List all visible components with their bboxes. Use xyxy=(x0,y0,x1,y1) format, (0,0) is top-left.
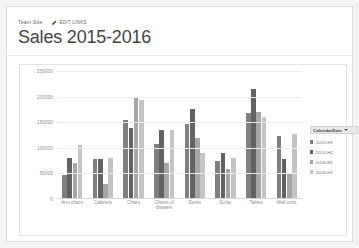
bar[interactable] xyxy=(154,144,159,199)
x-axis-tick-label: Cabinets xyxy=(88,200,119,219)
legend-item[interactable]: 2015-H2 xyxy=(310,147,358,157)
legend-swatch xyxy=(310,170,313,173)
bar[interactable] xyxy=(170,130,175,199)
pencil-icon xyxy=(51,20,57,26)
x-axis-line xyxy=(57,198,302,199)
chevron-down-icon xyxy=(344,129,348,131)
bar[interactable] xyxy=(195,138,200,199)
legend-title-button[interactable]: CalendarDate xyxy=(310,126,358,134)
y-axis: 250000200000150000100000500000 xyxy=(21,71,55,199)
bar-group xyxy=(241,71,272,199)
chart-legend: CalendarDate 2015-H12015-H22016-H12016-H… xyxy=(310,126,358,177)
legend-item[interactable]: 2015-H1 xyxy=(310,137,358,147)
y-axis-tick-label: 100000 xyxy=(37,145,53,150)
gridline xyxy=(57,122,302,123)
x-axis-tick-label: Tables xyxy=(241,200,272,219)
bar[interactable] xyxy=(256,112,261,199)
legend-item-label: 2015-H2 xyxy=(316,150,333,155)
legend-swatch xyxy=(310,160,313,163)
chart-webpart: 250000200000150000100000500000 Arm chair… xyxy=(19,64,347,236)
bar[interactable] xyxy=(287,174,292,199)
gridline xyxy=(57,173,302,174)
bar[interactable] xyxy=(103,184,108,199)
x-axis-tick-label: Sofas xyxy=(210,200,241,219)
bar[interactable] xyxy=(231,158,236,199)
gridline xyxy=(57,97,302,98)
legend-items: 2015-H12015-H22016-H12016-H2 xyxy=(310,137,358,177)
x-axis-tick-label: Chests of drawers xyxy=(149,200,180,219)
bar[interactable] xyxy=(246,113,251,199)
bar[interactable] xyxy=(139,100,144,199)
bar[interactable] xyxy=(93,159,98,199)
bar[interactable] xyxy=(108,158,113,199)
bar[interactable] xyxy=(282,159,287,199)
legend-swatch xyxy=(310,140,313,143)
bar-group xyxy=(57,71,88,199)
chart-plot-wrapper: 250000200000150000100000500000 Arm chair… xyxy=(21,71,306,219)
page-root: Team Site EDIT LINKS Sales 2015-2016 250… xyxy=(0,0,359,248)
y-axis-tick-label: 250000 xyxy=(37,69,53,74)
x-axis-tick-label: Wall units xyxy=(271,200,302,219)
gridline xyxy=(57,71,302,72)
y-axis-tick-label: 0 xyxy=(50,197,53,202)
bar[interactable] xyxy=(185,124,190,199)
bar[interactable] xyxy=(262,117,267,199)
bar-group xyxy=(180,71,211,199)
gridline xyxy=(57,148,302,149)
x-axis-tick-label: Chairs xyxy=(118,200,149,219)
bar[interactable] xyxy=(62,175,67,199)
bar[interactable] xyxy=(123,120,128,199)
bar-group xyxy=(210,71,241,199)
bar[interactable] xyxy=(251,89,256,199)
bar[interactable] xyxy=(73,163,78,199)
page-title: Sales 2015-2016 xyxy=(18,26,151,48)
bar[interactable] xyxy=(200,153,205,199)
bars-layer xyxy=(57,71,302,199)
y-axis-tick-label: 150000 xyxy=(37,120,53,125)
legend-item[interactable]: 2016-H2 xyxy=(310,167,358,177)
x-axis: Arm chairsCabinetsChairsChests of drawer… xyxy=(57,200,302,219)
legend-item-label: 2016-H2 xyxy=(316,170,333,175)
bar[interactable] xyxy=(292,134,297,199)
bar[interactable] xyxy=(159,130,164,199)
site-card: Team Site EDIT LINKS Sales 2015-2016 250… xyxy=(6,6,353,242)
bar[interactable] xyxy=(221,153,226,199)
x-axis-tick-label: Arm chairs xyxy=(57,200,88,219)
bar[interactable] xyxy=(67,158,72,199)
bar[interactable] xyxy=(215,161,220,199)
bar-group xyxy=(88,71,119,199)
bar[interactable] xyxy=(164,163,169,199)
bar[interactable] xyxy=(78,145,83,199)
bar[interactable] xyxy=(98,159,103,199)
bar-group xyxy=(149,71,180,199)
title-divider xyxy=(7,55,352,56)
legend-item[interactable]: 2016-H1 xyxy=(310,157,358,167)
legend-swatch xyxy=(310,150,313,153)
legend-item-label: 2015-H1 xyxy=(316,140,333,145)
x-axis-tick-label: Desks xyxy=(180,200,211,219)
legend-item-label: 2016-H1 xyxy=(316,160,333,165)
bar[interactable] xyxy=(129,128,134,199)
bar[interactable] xyxy=(277,136,282,199)
y-axis-tick-label: 50000 xyxy=(40,171,53,176)
legend-title-label: CalendarDate xyxy=(313,128,342,133)
bar-group xyxy=(118,71,149,199)
bar-group xyxy=(271,71,302,199)
plot-area xyxy=(57,71,302,199)
y-axis-tick-label: 200000 xyxy=(37,94,53,99)
